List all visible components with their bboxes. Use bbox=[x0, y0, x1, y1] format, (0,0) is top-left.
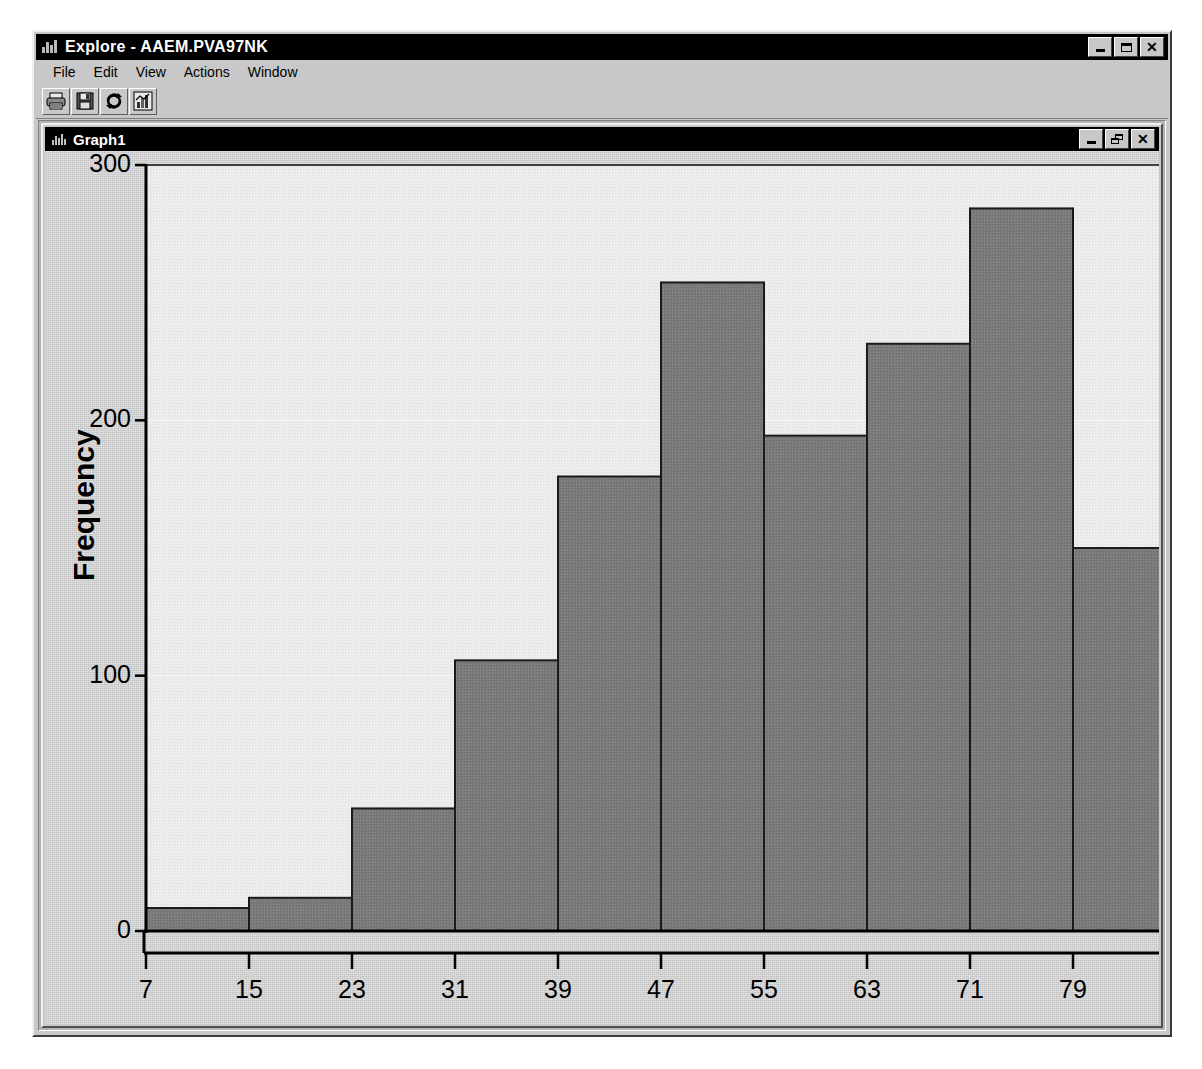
histogram-icon bbox=[51, 132, 67, 146]
refresh-icon bbox=[104, 91, 124, 111]
maximize-button[interactable] bbox=[1114, 37, 1138, 57]
close-button[interactable]: ✕ bbox=[1140, 37, 1164, 57]
main-titlebar: Explore - AAEM.PVA97NK ✕ bbox=[36, 34, 1168, 60]
x-tick-label: 23 bbox=[317, 975, 387, 1004]
x-tick-label: 63 bbox=[832, 975, 902, 1004]
y-tick-label: 200 bbox=[45, 404, 131, 433]
menubar: File Edit View Actions Window bbox=[36, 60, 1168, 85]
x-tick-label: 55 bbox=[729, 975, 799, 1004]
graph-titlebar: Graph1 ✕ bbox=[45, 127, 1159, 151]
histogram-svg bbox=[45, 151, 1159, 1011]
explore-icon bbox=[41, 39, 59, 55]
histogram-bar[interactable] bbox=[1073, 548, 1159, 931]
window-controls: ✕ bbox=[1088, 37, 1164, 57]
save-icon bbox=[75, 91, 95, 111]
histogram-bar[interactable] bbox=[352, 808, 455, 931]
minimize-button[interactable] bbox=[1088, 37, 1112, 57]
x-tick-label: 7 bbox=[111, 975, 181, 1004]
x-tick-label: 31 bbox=[420, 975, 490, 1004]
refresh-button[interactable] bbox=[100, 88, 128, 115]
graph-child-window: Graph1 ✕ Fr bbox=[41, 123, 1163, 1028]
maximize-icon bbox=[1121, 43, 1132, 52]
x-tick-label: 15 bbox=[214, 975, 284, 1004]
menu-item-view[interactable]: View bbox=[127, 62, 175, 82]
x-tick-label: 39 bbox=[523, 975, 593, 1004]
chart-button[interactable] bbox=[129, 88, 157, 115]
histogram-bar[interactable] bbox=[867, 344, 970, 931]
minimize-icon bbox=[1096, 49, 1105, 52]
menu-item-window[interactable]: Window bbox=[239, 62, 307, 82]
print-icon bbox=[45, 91, 67, 111]
chart-icon bbox=[133, 91, 153, 111]
y-tick-label: 0 bbox=[45, 915, 131, 944]
minimize-icon bbox=[1087, 141, 1096, 144]
x-tick-label: 87 bbox=[1141, 975, 1159, 1004]
histogram-bar[interactable] bbox=[249, 898, 352, 931]
histogram-bar[interactable] bbox=[970, 208, 1073, 931]
window-title: Explore - AAEM.PVA97NK bbox=[65, 38, 268, 56]
histogram-bar[interactable] bbox=[455, 660, 558, 931]
graph-close-button[interactable]: ✕ bbox=[1131, 129, 1155, 149]
histogram-bar[interactable] bbox=[558, 477, 661, 931]
histogram-bar[interactable] bbox=[146, 908, 249, 931]
menu-item-file[interactable]: File bbox=[44, 62, 85, 82]
histogram-bar[interactable] bbox=[764, 436, 867, 931]
graph-window-controls: ✕ bbox=[1079, 129, 1155, 149]
x-tick-label: 79 bbox=[1038, 975, 1108, 1004]
graph-restore-button[interactable] bbox=[1105, 129, 1129, 149]
histogram-bar[interactable] bbox=[661, 282, 764, 931]
y-tick-label: 300 bbox=[45, 151, 131, 178]
restore-icon bbox=[1111, 134, 1123, 144]
close-icon: ✕ bbox=[1146, 40, 1158, 54]
toolbar bbox=[36, 84, 1168, 119]
save-button[interactable] bbox=[71, 88, 99, 115]
menu-item-edit[interactable]: Edit bbox=[85, 62, 127, 82]
y-axis-label: Frequency bbox=[67, 429, 101, 581]
y-tick-label: 100 bbox=[45, 660, 131, 689]
histogram-plot: Frequency Age 0100200300 715233139475563… bbox=[45, 151, 1159, 1024]
graph-window-title: Graph1 bbox=[73, 131, 126, 148]
close-icon: ✕ bbox=[1137, 132, 1149, 146]
print-button[interactable] bbox=[42, 88, 70, 115]
mdi-client-area: Graph1 ✕ Fr bbox=[38, 120, 1166, 1031]
x-tick-label: 71 bbox=[935, 975, 1005, 1004]
menu-item-actions[interactable]: Actions bbox=[175, 62, 239, 82]
x-tick-label: 47 bbox=[626, 975, 696, 1004]
explore-application-window: Explore - AAEM.PVA97NK ✕ File Edit View … bbox=[32, 30, 1172, 1037]
graph-minimize-button[interactable] bbox=[1079, 129, 1103, 149]
